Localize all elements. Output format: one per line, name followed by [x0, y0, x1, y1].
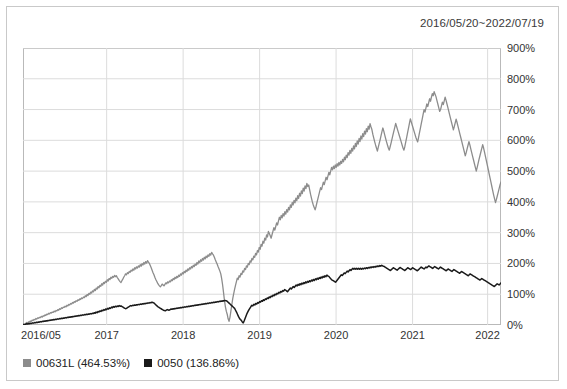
series-line-00631l — [23, 92, 501, 325]
legend-swatch-icon — [23, 359, 31, 367]
y-axis-tick-label: 400% — [507, 196, 535, 208]
legend-label: 00631L (464.53%) — [36, 357, 130, 369]
plot-area-wrapper — [23, 48, 501, 325]
chart-legend: 00631L (464.53%)0050 (136.86%) — [23, 357, 239, 369]
chart-card: 2016/05/20~2022/07/19 0%100%200%300%400%… — [6, 6, 559, 381]
y-axis-tick-label: 200% — [507, 257, 535, 269]
series-line-0050 — [23, 265, 501, 325]
x-axis-tick-label: 2021 — [400, 329, 424, 341]
x-axis-tick-label: 2019 — [247, 329, 271, 341]
legend-label: 0050 (136.86%) — [157, 357, 239, 369]
y-axis-tick-label: 700% — [507, 104, 535, 116]
page-title: 2016/05/20~2022/07/19 — [420, 17, 544, 29]
y-axis-tick-label: 300% — [507, 227, 535, 239]
y-axis-tick-label: 600% — [507, 134, 535, 146]
y-axis-tick-label: 500% — [507, 165, 535, 177]
y-axis-tick-label: 900% — [507, 42, 535, 54]
x-axis-tick-label: 2022 — [475, 329, 499, 341]
x-axis-tick-label: 2018 — [171, 329, 195, 341]
y-axis-tick-label: 0% — [507, 319, 523, 331]
x-axis-tick-label: 2017 — [94, 329, 118, 341]
chart-svg — [23, 48, 501, 325]
legend-item-0050[interactable]: 0050 (136.86%) — [144, 357, 239, 369]
x-axis-tick-label: 2020 — [324, 329, 348, 341]
legend-item-00631l[interactable]: 00631L (464.53%) — [23, 357, 130, 369]
y-axis-tick-label: 100% — [507, 288, 535, 300]
x-axis-tick-label: 2016/05 — [21, 329, 61, 341]
y-axis-tick-label: 800% — [507, 73, 535, 85]
legend-swatch-icon — [144, 359, 152, 367]
